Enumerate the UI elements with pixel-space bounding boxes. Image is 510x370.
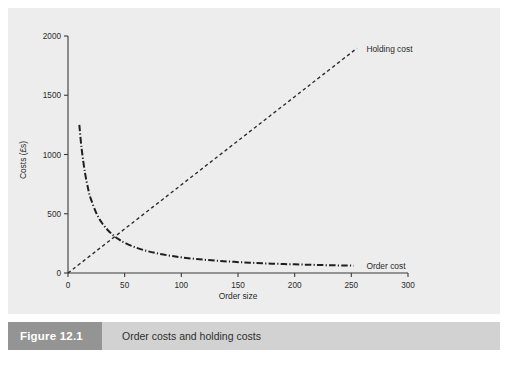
figure-container: 0500100015002000 050100150200250300 Orde…	[0, 0, 510, 370]
figure-number-box: Figure 12.1	[8, 322, 102, 350]
figure-caption-bar: Figure 12.1 Order costs and holding cost…	[8, 322, 500, 350]
figure-caption-wrap: Order costs and holding costs	[102, 322, 500, 350]
figure-caption-label: Order costs and holding costs	[122, 330, 261, 342]
figure-number-label: Figure 12.1	[20, 330, 83, 342]
chart-panel	[8, 8, 500, 314]
